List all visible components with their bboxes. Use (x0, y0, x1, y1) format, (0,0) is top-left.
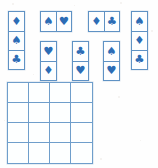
puzzle-piece[interactable]: ♣♥ (72, 41, 89, 81)
puzzle-piece[interactable]: ♥♦ (40, 41, 57, 81)
diamond-icon: ♦ (43, 65, 53, 77)
paper-speck (118, 96, 120, 98)
paper-speck (140, 140, 141, 141)
board-cell[interactable] (71, 143, 92, 163)
board-grid[interactable] (7, 82, 93, 164)
board-cell[interactable] (71, 123, 92, 143)
board-cell[interactable] (8, 143, 29, 163)
spade-icon: ♠ (11, 35, 21, 47)
heart-icon: ♥ (75, 65, 85, 77)
board-cell[interactable] (71, 103, 92, 123)
board-cell[interactable] (71, 83, 92, 103)
paper-speck (74, 5, 75, 6)
heart-icon: ♥ (43, 45, 53, 57)
board-cell[interactable] (50, 103, 71, 123)
board-cell[interactable] (29, 123, 50, 143)
piece-cell[interactable]: ♣ (104, 12, 119, 31)
piece-cell[interactable]: ♥ (56, 12, 71, 31)
piece-cell[interactable]: ♦ (89, 12, 104, 31)
puzzle-piece[interactable]: ♦♣ (88, 11, 120, 32)
paper-speck (151, 30, 153, 32)
board-cell[interactable] (50, 83, 71, 103)
piece-cell[interactable]: ♥ (104, 61, 119, 80)
puzzle-piece[interactable]: ♠♥ (40, 11, 72, 32)
diamond-icon: ♦ (134, 35, 144, 47)
board-cell[interactable] (50, 143, 71, 163)
piece-cell[interactable]: ♠ (104, 42, 119, 61)
puzzle-piece[interactable]: ♦♠♣ (8, 11, 25, 70)
paper-speck (100, 158, 102, 160)
piece-cell[interactable]: ♣ (132, 50, 147, 69)
club-icon: ♣ (11, 54, 21, 65)
board-cell[interactable] (8, 123, 29, 143)
spade-icon: ♠ (106, 45, 116, 57)
diamond-icon: ♦ (91, 15, 101, 27)
piece-cell[interactable]: ♣ (73, 42, 88, 61)
spade-icon: ♠ (43, 15, 53, 27)
piece-cell[interactable]: ♠ (132, 12, 147, 31)
spade-icon: ♠ (134, 15, 144, 27)
puzzle-piece[interactable]: ♠♦♣ (131, 11, 148, 70)
board-cell[interactable] (29, 143, 50, 163)
paper-speck (120, 2, 122, 4)
board-cell[interactable] (8, 83, 29, 103)
piece-cell[interactable]: ♥ (41, 42, 56, 61)
puzzle-piece[interactable]: ♠♥ (103, 41, 120, 81)
board-cell[interactable] (29, 103, 50, 123)
puzzle-scene: ♦♠♣♠♥♦♣♠♦♣♥♦♣♥♠♥ (0, 0, 158, 168)
piece-cell[interactable]: ♦ (9, 12, 24, 31)
piece-cell[interactable]: ♠ (9, 31, 24, 50)
heart-icon: ♥ (59, 15, 69, 27)
club-icon: ♣ (107, 15, 117, 27)
piece-cell[interactable]: ♣ (9, 50, 24, 69)
club-icon: ♣ (75, 45, 85, 57)
board-cell[interactable] (29, 83, 50, 103)
board-cell[interactable] (8, 103, 29, 123)
paper-speck (4, 120, 5, 121)
diamond-icon: ♦ (11, 15, 21, 27)
paper-speck (12, 3, 14, 5)
piece-cell[interactable]: ♥ (73, 61, 88, 80)
piece-cell[interactable]: ♦ (41, 61, 56, 80)
piece-cell[interactable]: ♠ (41, 12, 56, 31)
club-icon: ♣ (134, 54, 144, 65)
piece-cell[interactable]: ♦ (132, 31, 147, 50)
board-cell[interactable] (50, 123, 71, 143)
heart-icon: ♥ (106, 65, 116, 77)
paper-speck (33, 74, 34, 75)
